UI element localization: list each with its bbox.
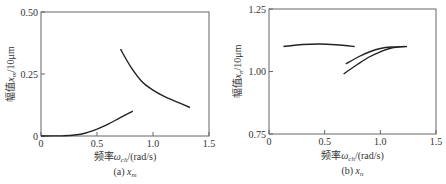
y-tick-label: 0.50 [21, 7, 39, 18]
plot-frame [41, 12, 209, 136]
plot-frame [269, 9, 436, 134]
subfigure-caption: (a) xm [113, 166, 136, 179]
x-axis-title: 频率ωch/(rad/s) [321, 149, 384, 163]
x-axis-title: 频率ωch/(rad/s) [94, 150, 157, 164]
x-tick-label: 0.5 [318, 136, 331, 147]
x-tick-label: 1.0 [147, 138, 160, 149]
y-tick-label: 0 [33, 131, 38, 142]
y-axis-title: 幅值xn/10μm [231, 44, 245, 98]
x-tick-label: 1.5 [430, 136, 443, 147]
curve-upper-branch [121, 49, 191, 107]
curve-upper-rising-branch [346, 47, 405, 65]
y-tick-label: 0.25 [21, 69, 39, 80]
y-tick-label: 1.00 [249, 66, 267, 77]
x-tick-label: 0 [267, 136, 272, 147]
curve-lower-branch [41, 111, 133, 136]
x-tick-label: 0 [39, 138, 44, 149]
y-tick-label: 1.25 [249, 4, 267, 15]
x-tick-label: 0.5 [91, 138, 104, 149]
figure: 00.51.01.500.250.50幅值xm/10μm频率ωch/(rad/s… [0, 0, 446, 184]
chart-b: 00.51.01.50.751.001.25幅值xn/10μm频率ωch/(ra… [231, 4, 442, 179]
x-tick-label: 1.0 [374, 136, 387, 147]
subfigure-caption: (b) xn [341, 165, 364, 178]
y-tick-label: 0.75 [249, 129, 267, 140]
y-axis-title: 幅值xm/10μm [4, 46, 18, 102]
x-tick-label: 1.5 [203, 138, 216, 149]
curve-flat-branch [284, 44, 355, 47]
chart-a: 00.51.01.500.250.50幅值xm/10μm频率ωch/(rad/s… [4, 7, 215, 180]
